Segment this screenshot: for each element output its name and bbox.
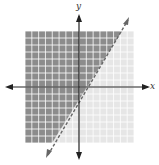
x-axis-arrow-left-icon bbox=[5, 84, 13, 90]
y-axis-label: y bbox=[76, 1, 81, 11]
boundary-arrow-top-icon bbox=[123, 17, 129, 25]
coordinate-plane bbox=[0, 0, 159, 165]
x-axis-label: x bbox=[150, 81, 155, 91]
y-axis-arrow-up-icon bbox=[76, 14, 82, 22]
x-axis-arrow-right-icon bbox=[142, 84, 150, 90]
y-axis-arrow-down-icon bbox=[76, 152, 82, 160]
